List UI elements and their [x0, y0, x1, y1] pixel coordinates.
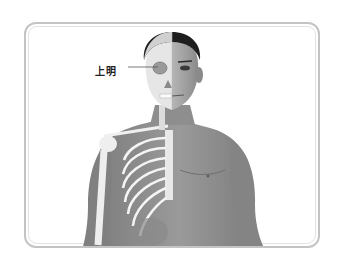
anatomy-figure [0, 0, 341, 264]
torso [82, 105, 265, 250]
acupoint-label: 上明 [95, 63, 117, 78]
head [144, 32, 203, 110]
